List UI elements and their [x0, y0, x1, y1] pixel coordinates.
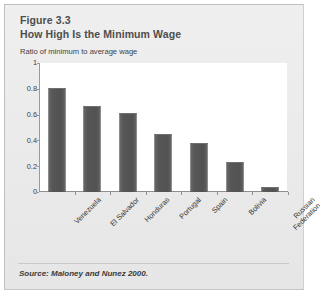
x-tick-mark: [217, 192, 218, 195]
x-axis-label-line: Honduras: [143, 196, 171, 224]
x-tick-mark: [288, 192, 289, 195]
y-tick-label: 0.2: [19, 163, 37, 170]
x-tick-mark: [181, 192, 182, 195]
bar[interactable]: [226, 162, 243, 192]
figure-heading: Figure 3.3 How High Is the Minimum Wage: [20, 14, 285, 41]
x-tick-mark: [146, 192, 147, 195]
bar[interactable]: [155, 134, 172, 192]
x-tick-mark: [110, 192, 111, 195]
x-axis-label: El Salvador: [109, 196, 141, 228]
bar-chart: Ratio of minimum to average wage 00.20.4…: [19, 47, 291, 265]
x-axis-label-line: Spain: [211, 196, 230, 215]
y-tick-label: 0.8: [19, 85, 37, 92]
x-axis-label: RussianFederation: [286, 196, 310, 232]
x-axis-label-line: Bolivia: [247, 196, 268, 217]
figure-background: Figure 3.3 How High Is the Minimum Wage …: [5, 5, 303, 289]
x-axis-label-line: El Salvador: [109, 196, 141, 228]
x-axis-label-line: Portugal: [177, 196, 202, 221]
x-axis-label: Bolivia: [247, 196, 268, 217]
x-tick-mark: [75, 192, 76, 195]
y-tick-mark: [37, 192, 39, 193]
footer-divider: [18, 263, 289, 264]
x-axis-label: Venezuela: [73, 196, 103, 226]
x-axis-labels: VenezuelaEl SalvadorHondurasPortugalSpai…: [39, 196, 288, 262]
bar-slot: [75, 63, 111, 192]
x-tick-mark: [252, 192, 253, 195]
x-axis-label: Spain: [211, 196, 230, 215]
x-axis-label: Portugal: [177, 196, 202, 221]
bar-slot: [252, 63, 288, 192]
bar-slot: [181, 63, 217, 192]
y-axis-ticks: 00.20.40.60.81: [19, 63, 37, 192]
bar[interactable]: [84, 106, 101, 192]
bar[interactable]: [191, 143, 208, 192]
y-axis-title: Ratio of minimum to average wage: [20, 47, 137, 56]
bar-slot: [217, 63, 253, 192]
x-axis-label: Honduras: [143, 196, 171, 224]
bar[interactable]: [119, 113, 136, 192]
figure-number: Figure 3.3: [20, 14, 285, 28]
x-axis-label-line: Venezuela: [73, 196, 103, 226]
bar-slot: [110, 63, 146, 192]
y-tick-label: 0: [19, 188, 37, 195]
bar-slot: [146, 63, 182, 192]
bar-slot: [39, 63, 75, 192]
y-tick-label: 1: [19, 59, 37, 66]
bar[interactable]: [262, 187, 279, 192]
y-tick-label: 0.4: [19, 137, 37, 144]
y-tick-label: 0.6: [19, 111, 37, 118]
bar[interactable]: [48, 88, 65, 192]
figure-title: How High Is the Minimum Wage: [20, 28, 285, 42]
figure-card: Figure 3.3 How High Is the Minimum Wage …: [4, 4, 304, 290]
bars-layer: [39, 63, 288, 192]
source-note: Source: Maloney and Nunez 2000.: [19, 269, 148, 278]
